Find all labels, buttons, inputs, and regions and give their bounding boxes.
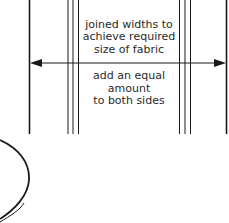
lower-label-line-3: to both sides [93,94,165,107]
left-seam-lines [68,0,79,134]
upper-label-line-3: size of fabric [94,43,164,56]
partial-ellipse-curve [0,140,29,219]
partial-ellipse-inner-stroke [0,203,24,222]
arrowhead-left-icon [30,59,42,67]
right-seam-lines [180,0,191,134]
width-arrow [30,59,226,67]
fabric-width-diagram: joined widths to achieve required size o… [0,0,229,223]
upper-label-line-2: achieve required [83,30,175,43]
arrowhead-right-icon [214,59,226,67]
lower-label-line-1: add an equal [93,69,165,82]
